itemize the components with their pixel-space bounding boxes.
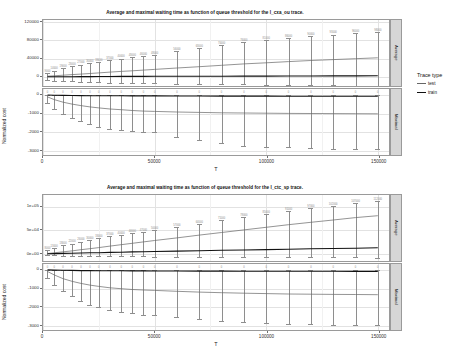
x-tick-mark [267, 156, 268, 158]
series-lines [43, 264, 389, 330]
legend-item-train[interactable]: train [417, 89, 442, 95]
y-tick-mark [40, 325, 42, 326]
y-tick-mark [40, 39, 42, 40]
facet-strip-average-1: Average [390, 19, 402, 87]
x-tick-label: 150000 [359, 334, 399, 339]
series-line-train [48, 95, 378, 96]
y-tick-label: 0 [10, 91, 39, 96]
x-axis-title-2: T [42, 341, 390, 347]
y-tick-label: 120000 [10, 19, 39, 24]
y-tick-mark [40, 58, 42, 59]
x-tick-label: 100000 [247, 334, 287, 339]
y-tick-label: -3000 [10, 323, 39, 328]
series-line-train [48, 248, 378, 254]
series-line-train [48, 270, 378, 272]
series-line-test [48, 97, 378, 114]
facet-strip-maximal-1: Maximal [390, 88, 402, 156]
y-tick-label: 0 [10, 266, 39, 271]
y-tick-mark [40, 229, 42, 230]
panel-maximal-2: 0000000000000000000000 [42, 263, 390, 331]
series-line-test [48, 58, 378, 76]
legend-key-icon [417, 89, 426, 95]
y-tick-label: -1000 [10, 285, 39, 290]
x-tick-mark [267, 331, 268, 333]
facet-strip-label: Maximal [394, 114, 399, 130]
x-tick-label: 50000 [134, 334, 174, 339]
x-tick-mark [379, 156, 380, 158]
series-lines [43, 89, 389, 155]
y-tick-label: -3000 [10, 148, 39, 153]
series-line-test [48, 216, 378, 254]
legend-key-icon [417, 81, 426, 87]
y-tick-mark [40, 288, 42, 289]
x-tick-label: 100000 [247, 159, 287, 164]
y-tick-mark [40, 253, 42, 254]
y-axis-title-2: Normalized cost [1, 224, 7, 320]
legend-item-label: test [428, 81, 435, 86]
y-tick-mark [40, 131, 42, 132]
panel-average-1: 9000140001900023000270003000033000370004… [42, 19, 390, 87]
facet-strip-label: Average [394, 45, 399, 61]
figure-l-cxa-ou: Average and maximal waiting time as func… [0, 0, 463, 178]
series-line-test [48, 272, 378, 295]
y-tick-label: 0e+00 [10, 251, 39, 256]
series-lines [43, 20, 389, 86]
panel-average-2: 8000130001800022000260003000033000370004… [42, 194, 390, 262]
y-tick-label: 0 [10, 73, 39, 78]
facet-strip-label: Average [394, 220, 399, 236]
y-tick-mark [40, 306, 42, 307]
y-tick-mark [40, 21, 42, 22]
figure-l-ctc-sp: Average and maximal waiting time as func… [0, 178, 463, 355]
y-tick-mark [40, 269, 42, 270]
y-tick-label: 80000 [10, 37, 39, 42]
y-tick-mark [40, 113, 42, 114]
facet-strip-average-2: Average [390, 194, 402, 262]
y-tick-label: -2000 [10, 129, 39, 134]
y-tick-label: -1000 [10, 110, 39, 115]
y-tick-label: 5e+04 [10, 227, 39, 232]
y-tick-mark [40, 94, 42, 95]
legend-item-test[interactable]: test [417, 81, 442, 87]
panel-maximal-1: 0000000000000000000000 [42, 88, 390, 156]
chart-title-2: Average and maximal waiting time as func… [40, 185, 370, 190]
legend-trace-type: Trace type testtrain [417, 72, 442, 95]
x-tick-mark [154, 331, 155, 333]
legend-item-label: train [428, 90, 437, 95]
legend-title: Trace type [417, 72, 442, 78]
x-tick-mark [42, 156, 43, 158]
y-tick-label: -2000 [10, 304, 39, 309]
y-tick-mark [40, 150, 42, 151]
x-tick-label: 0 [22, 334, 62, 339]
chart-title-1: Average and maximal waiting time as func… [40, 10, 370, 15]
x-tick-label: 150000 [359, 159, 399, 164]
x-tick-mark [154, 156, 155, 158]
x-tick-mark [379, 331, 380, 333]
facet-strip-maximal-2: Maximal [390, 263, 402, 331]
x-tick-label: 50000 [134, 159, 174, 164]
x-tick-label: 0 [22, 159, 62, 164]
y-tick-label: 1e+05 [10, 203, 39, 208]
x-tick-mark [42, 331, 43, 333]
series-lines [43, 195, 389, 261]
y-tick-mark [40, 206, 42, 207]
series-line-train [48, 76, 378, 77]
x-axis-title-1: T [42, 166, 390, 172]
y-tick-mark [40, 76, 42, 77]
legend-items: testtrain [417, 81, 442, 96]
y-axis-title-1: Normalized cost [1, 48, 7, 144]
facet-strip-label: Maximal [394, 289, 399, 305]
y-tick-label: 40000 [10, 55, 39, 60]
